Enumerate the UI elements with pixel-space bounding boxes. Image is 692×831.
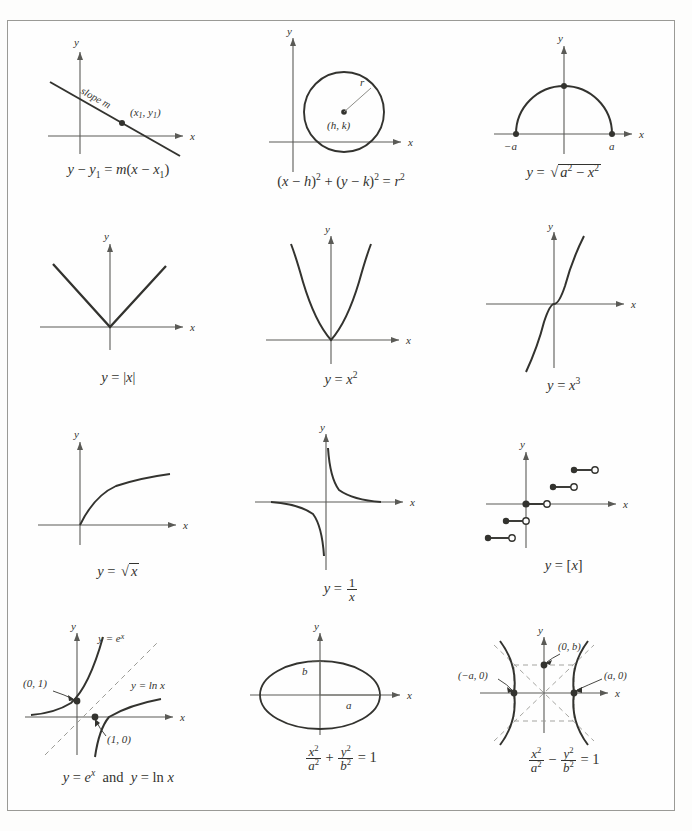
x-axis-arrow	[168, 522, 176, 528]
page-background: x y slope m (x1, y1) y − y1 = m(x − x1) …	[0, 0, 692, 831]
panel-absolute-value: x y y = |x| y = |x|	[7, 218, 230, 416]
panel-cubic: x y y = x3 y = x³	[452, 218, 675, 416]
plot-reciprocal: x y	[241, 420, 441, 578]
tick-label-neg-a: −a	[504, 140, 517, 152]
label-a-0: (a, 0)	[604, 670, 627, 682]
point-label: (x1, y1)	[130, 106, 161, 120]
x-axis-arrow	[392, 692, 400, 698]
caption-parabola: y = x2	[324, 372, 357, 387]
identity-reference-line	[45, 641, 159, 755]
plot-semicircle: x y −a a	[464, 24, 664, 166]
y-axis-label: y	[73, 428, 79, 440]
x-axis-label: x	[405, 334, 411, 346]
x-axis-label: x	[614, 687, 620, 699]
tick-label-a: a	[609, 140, 615, 152]
slope-label: slope m	[79, 85, 113, 111]
caption-greatest-integer: y = [x]	[545, 558, 583, 573]
point-marker-left	[513, 131, 519, 137]
label-neg-a-0: (−a, 0)	[458, 670, 488, 682]
radius-line	[344, 88, 371, 112]
panel-ellipse: x y b a x2 a2 + y2 b2 = 1	[230, 613, 453, 811]
panel-semicircle: x y −a a y = √a2 − x2 y = √(a² − x²)	[452, 20, 675, 218]
plot-hyperbola: x y (0, b) (−a, 0)	[456, 617, 671, 749]
panel-hyperbola: x y (0, b) (−a, 0)	[452, 613, 675, 811]
caption-hyperbola: x2 a2 − y2 b2 = 1	[528, 747, 600, 774]
plot-exponential-logarithm: x y y = ex y = ln x (0, 1) (1, 0)	[11, 617, 226, 772]
y-axis-arrow	[107, 244, 113, 252]
y-axis-label: y	[103, 230, 109, 242]
plot-ellipse: x y b a	[238, 617, 443, 747]
panel-parabola: x y y = x2 y = x²	[230, 218, 453, 416]
square-root-curve	[80, 474, 170, 525]
x-axis-label: x	[409, 496, 415, 508]
y-axis-label: y	[319, 421, 325, 433]
y-axis-arrow	[290, 38, 296, 46]
plot-parabola: x y	[241, 222, 441, 374]
y-axis-label: y	[537, 624, 543, 636]
semi-axis-b-label: b	[302, 665, 308, 677]
x-axis-arrow	[624, 131, 632, 137]
x-axis-arrow	[175, 324, 183, 330]
plot-cubic: x y	[464, 222, 664, 380]
x-axis-arrow	[616, 301, 624, 307]
plot-square-root: x y	[18, 420, 218, 565]
y-axis-arrow	[561, 46, 567, 54]
semi-axis-a-label: a	[346, 699, 352, 711]
y-axis-label: y	[519, 438, 525, 450]
y-axis-label: y	[313, 620, 319, 632]
x-axis-label: x	[189, 130, 195, 142]
leader-line-neg-a-0	[498, 679, 512, 690]
plot-circle: x y r (h, k)	[241, 24, 441, 176]
figure-grid: x y slope m (x1, y1) y − y1 = m(x − x1) …	[7, 20, 675, 811]
panel-greatest-integer: x y	[452, 416, 675, 614]
fraction-y2-b2-hyp: y2 b2	[561, 747, 576, 774]
caption-square-root: y = √x	[97, 563, 139, 579]
y-axis-arrow	[541, 637, 547, 645]
y-axis-label: y	[70, 620, 76, 632]
panel-reciprocal: x y y = 1 x y = 1/x	[230, 416, 453, 614]
x-axis-label: x	[189, 321, 195, 333]
panel-circle: x y r (h, k) (x − h)2 + (y − k)2 = r2 (x…	[230, 20, 453, 218]
fraction-one-over-x: 1 x	[347, 576, 358, 603]
logarithm-label: y = ln x	[130, 679, 165, 691]
reciprocal-branch-negative	[271, 502, 324, 556]
x-axis-arrow	[608, 501, 616, 507]
leader-arrow-1-0	[95, 719, 100, 727]
line-curve	[50, 82, 180, 156]
caption-absolute-value: y = |x|	[101, 370, 135, 385]
y-axis-arrow	[523, 452, 529, 460]
y-axis-label: y	[547, 222, 553, 232]
caption-straight-line: y − y1 = m(x − x1)	[67, 162, 169, 177]
caption-ellipse: x2 a2 + y2 b2 = 1	[305, 745, 377, 772]
plot-straight-line: x y slope m (x1, y1)	[18, 24, 218, 164]
x-axis-arrow	[393, 139, 401, 145]
fraction-x2-a2: x2 a2	[306, 745, 321, 772]
y-axis-arrow	[317, 633, 323, 641]
x-axis-arrow	[395, 499, 403, 505]
label-0-1: (0, 1)	[23, 677, 47, 690]
y-axis-label: y	[324, 223, 330, 235]
x-axis-label: x	[638, 128, 644, 140]
fraction-x2-a2-hyp: x2 a2	[529, 747, 544, 774]
y-axis-label: y	[73, 36, 79, 48]
radius-label: r	[360, 76, 365, 88]
x-axis-arrow	[175, 133, 183, 139]
y-axis-arrow	[328, 236, 334, 244]
x-axis-arrow	[165, 714, 173, 720]
point-marker-right	[609, 131, 615, 137]
exponential-curve	[31, 637, 103, 715]
y-axis-label: y	[557, 32, 563, 44]
y-axis-arrow	[77, 52, 83, 60]
panel-square-root: x y y = √x y = √x	[7, 416, 230, 614]
plot-absolute-value: x y	[18, 222, 218, 372]
x-axis-label: x	[182, 519, 188, 531]
y-axis-arrow	[323, 434, 329, 442]
center-label: (h, k)	[327, 119, 351, 132]
x-axis-label: x	[406, 689, 412, 701]
caption-semicircle: y = √a2 − x2	[526, 164, 601, 180]
y-axis-arrow	[77, 442, 83, 450]
y-axis-arrow	[551, 232, 557, 240]
leader-line-0-b	[547, 654, 560, 662]
point-marker-0-1	[73, 698, 80, 705]
label-0-b: (0, b)	[558, 641, 581, 653]
